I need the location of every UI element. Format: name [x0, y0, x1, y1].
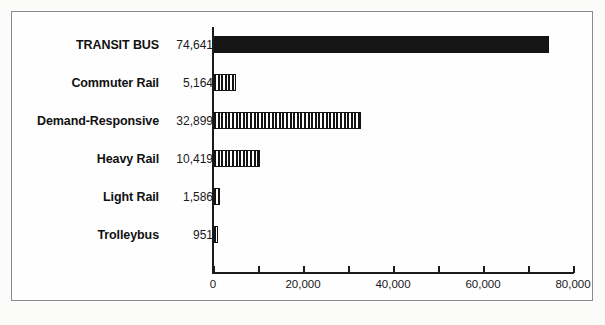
x-axis-tick-label: 60,000 — [465, 278, 500, 290]
x-axis-tick — [528, 266, 530, 273]
chart-row-label: TRANSIT BUS 74,641 — [18, 34, 213, 56]
category-value: 1,586 — [165, 190, 213, 204]
category-label: TRANSIT BUS — [76, 38, 159, 52]
x-axis-tick — [573, 266, 575, 273]
category-value: 951 — [165, 228, 213, 242]
chart-row-label: Trolleybus 951 — [18, 224, 213, 246]
x-axis-tick-label: 0 — [210, 278, 216, 290]
category-label: Heavy Rail — [97, 152, 159, 166]
category-label: Commuter Rail — [71, 76, 159, 90]
category-label: Demand-Responsive — [37, 114, 159, 128]
category-value: 74,641 — [165, 38, 213, 52]
x-axis-tick-label: 20,000 — [285, 278, 320, 290]
x-axis-tick — [213, 266, 215, 273]
x-axis-tick — [258, 266, 260, 273]
bar-commuter-rail — [213, 74, 236, 91]
bar-heavy-rail — [213, 150, 260, 167]
chart-page: TRANSIT BUS 74,641 Commuter Rail 5,164 D… — [0, 0, 605, 325]
bar-transit-bus — [213, 36, 549, 53]
category-value: 5,164 — [165, 76, 213, 90]
chart-row-label: Demand-Responsive 32,899 — [18, 110, 213, 132]
category-value: 10,419 — [165, 152, 213, 166]
x-axis-tick-label: 40,000 — [375, 278, 410, 290]
x-axis-tick — [483, 266, 485, 273]
bar-chart-plot: TRANSIT BUS 74,641 Commuter Rail 5,164 D… — [0, 0, 605, 325]
x-axis-tick — [348, 266, 350, 273]
category-label: Light Rail — [103, 190, 159, 204]
y-axis-line — [212, 27, 214, 272]
chart-row-label: Light Rail 1,586 — [18, 186, 213, 208]
bar-demand-responsive — [213, 112, 361, 129]
category-label: Trolleybus — [97, 228, 159, 242]
category-value: 32,899 — [165, 114, 213, 128]
bar-light-rail — [213, 188, 220, 205]
x-axis-tick-label: 80,000 — [555, 278, 590, 290]
x-axis-tick — [303, 266, 305, 273]
x-axis-tick — [438, 266, 440, 273]
x-axis-tick — [393, 266, 395, 273]
chart-row-label: Heavy Rail 10,419 — [18, 148, 213, 170]
chart-row-label: Commuter Rail 5,164 — [18, 72, 213, 94]
